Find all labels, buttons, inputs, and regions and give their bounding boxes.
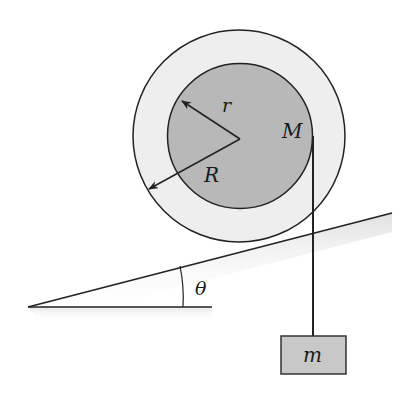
label-M: M [281,119,303,143]
ground-shading [28,307,212,322]
label-R: R [203,163,219,187]
physics-diagram: r R M θ m [0,0,417,402]
label-theta: θ [195,277,207,299]
label-m: m [303,343,322,367]
